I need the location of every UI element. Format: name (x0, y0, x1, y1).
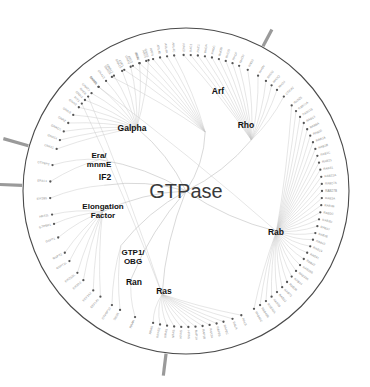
leaf-label: RAB31 (323, 165, 334, 171)
leaf-label: ERAL1 (37, 178, 47, 183)
leaf-tip-dot (320, 204, 322, 206)
leaf-label: RRAS (148, 326, 154, 335)
leaf-tip-dot (231, 62, 233, 64)
leaf-tip-dot (201, 325, 203, 327)
leaf-label: RHOF (232, 51, 239, 61)
leaf-tip-dot (238, 65, 240, 67)
leaf-branch (251, 76, 258, 140)
root-label: GTPase (149, 180, 222, 202)
leaf-label: ARL4C (171, 42, 176, 53)
leaf-tip-dot (319, 211, 321, 213)
clade-label-era-mnme: Era/mnmE (87, 151, 112, 169)
clade-label-arf: Arf (212, 86, 224, 96)
leaf-tip-dot (319, 169, 321, 171)
leaf-tip-dot (180, 326, 182, 328)
leaf-tip-dot (247, 69, 249, 71)
leaf-label: GTPBP1 (39, 222, 52, 229)
leaf-tip-dot (81, 102, 83, 104)
leaf-label: EEF1A2 (82, 291, 93, 302)
leaf-tip-dot (270, 84, 272, 86)
leaf-tip-dot (173, 325, 175, 327)
leaf-label: RAP1B (201, 329, 206, 340)
leaf-tip-dot (76, 272, 78, 274)
leaf-branch (99, 87, 137, 128)
leaf-tip-dot (56, 148, 58, 150)
leaf-tip-dot (314, 148, 316, 150)
leaf-tip-dot (190, 54, 192, 56)
leaf-tip-dot (318, 162, 320, 164)
leaf-tip-dot (194, 326, 196, 328)
leaf-tip-dot (222, 321, 224, 323)
leaf-label: RAP2A (208, 328, 214, 340)
leaf-tip-dot (303, 122, 305, 124)
leaf-label: GNAO1 (50, 123, 62, 131)
leaf-tip-dot (97, 86, 99, 88)
clade-label-gtp1-obg: GTP1/OBG (121, 248, 145, 266)
leaf-label: RAB22A (324, 173, 337, 178)
marker-left-lower (3, 139, 28, 146)
leaf-tip-dot (111, 76, 113, 78)
leaf-tip-dot (166, 325, 168, 327)
leaf-tip-dot (291, 104, 293, 106)
leaf-label: ARL4D (156, 44, 162, 55)
leaf-tip-dot (68, 260, 70, 262)
leaf-tip-dot (208, 324, 210, 326)
leaf-tip-dot (316, 225, 318, 227)
leaf-tip-dot (257, 75, 259, 77)
leaf-tip-dot (318, 218, 320, 220)
leaf-tip-dot (78, 106, 80, 108)
leaf-label: RAB41 (309, 252, 320, 260)
leaf-label: RAB13 (305, 114, 316, 122)
leaf-branch (99, 87, 277, 231)
leaf-tip-dot (59, 139, 61, 141)
leaf-label: EEF1A1 (89, 298, 100, 310)
leaf-tip-dot (49, 180, 51, 182)
leaf-label: RND3 (247, 58, 254, 68)
leaf-tip-dot (306, 252, 308, 254)
leaf-tip-dot (57, 236, 59, 238)
leaf-tip-dot (204, 55, 206, 57)
clade-label-rab: Rab (268, 227, 284, 237)
leaf-tip-dot (316, 155, 318, 157)
leaf-tip-dot (132, 65, 134, 67)
clade-label-ras: Ras (156, 286, 172, 296)
marker-bottom (163, 354, 166, 376)
leaf-label: RAB43 (315, 239, 326, 246)
leaf-label: GTPBP3 (37, 160, 50, 166)
leaf-tip-dot (113, 75, 115, 77)
leaf-label: RAB19 (312, 246, 323, 254)
leaf-label: RHOC (210, 44, 216, 54)
leaf-label: RAB3B (324, 203, 334, 208)
leaf-branch (50, 185, 104, 198)
figure-canvas: GNASGNALGNAQGNA15GNA12GNA13GNAT1GNAT2GNA… (0, 0, 370, 387)
phylogenetic-tree-svg: GNASGNALGNAQGNA15GNA12GNA13GNAT1GNAT2GNA… (0, 0, 370, 387)
leaf-tip-dot (147, 59, 149, 61)
leaf-label: RAB1B (318, 143, 329, 150)
leaf-tip-dot (182, 54, 184, 56)
leaf-tip-dot (283, 95, 285, 97)
leaf-tip-dot (211, 56, 213, 58)
leaf-label: EIF2S3L (64, 273, 76, 284)
leaf-tip-dot (281, 286, 283, 288)
leaf-label: RAC2 (189, 43, 193, 52)
leaf-label: EIF2B5 (37, 196, 48, 201)
leaf-tip-dot (291, 275, 293, 277)
leaf-tip-dot (187, 326, 189, 328)
leaf-label: RHOU (266, 70, 275, 80)
leaf-label: ARF4 (134, 52, 141, 61)
leaf-tip-dot (53, 223, 55, 225)
leaf-tip-dot (218, 58, 220, 60)
leaf-tip-dot (49, 197, 51, 199)
leaf-label: RHOA (203, 43, 208, 53)
clade-label-galpha: Galpha (118, 123, 147, 133)
leaf-label: RAB8A (309, 121, 321, 130)
leaf-label: RRAS2 (155, 327, 161, 338)
leaf-branch (251, 97, 283, 140)
clade-label-ran: Ran (126, 277, 142, 287)
leaf-tip-dot (306, 128, 308, 130)
leaf-label: GNAI3 (62, 106, 72, 115)
leaf-label: GNA14 (47, 133, 58, 141)
leaf-tip-dot (286, 281, 288, 283)
leaf-tip-dot (276, 291, 278, 293)
leaf-label: RAP2B (216, 326, 222, 337)
